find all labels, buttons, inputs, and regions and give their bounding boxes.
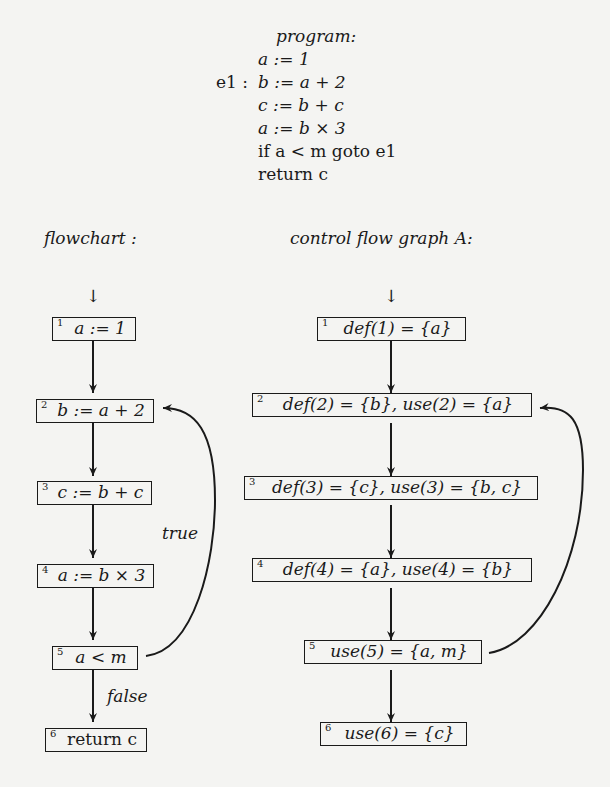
node-label: def(4) = {a}, use(4) = {b} xyxy=(271,559,513,580)
flowchart-node-1: 1a := 1 xyxy=(52,317,136,341)
node-label: a := b × 3 xyxy=(46,565,146,586)
node-number: 2 xyxy=(41,400,47,410)
node-number: 1 xyxy=(322,318,328,328)
node-label: def(2) = {b}, use(2) = {a} xyxy=(271,394,513,415)
node-label: return c xyxy=(55,729,137,750)
cfg-node-1: 1def(1) = {a} xyxy=(317,317,466,341)
node-label: use(6) = {c} xyxy=(332,723,454,744)
flowchart-node-6: 6return c xyxy=(45,728,147,752)
node-number: 6 xyxy=(50,729,56,739)
cfg-node-3: 3def(3) = {c}, use(3) = {b, c} xyxy=(244,476,538,500)
cfg-node-2: 2def(2) = {b}, use(2) = {a} xyxy=(252,393,532,417)
node-label: a < m xyxy=(63,647,126,668)
node-number: 5 xyxy=(57,647,63,657)
edge-label-false: false xyxy=(107,686,148,706)
node-number: 3 xyxy=(249,477,255,487)
flowchart-node-2: 2b := a + 2 xyxy=(36,399,154,423)
node-label: a := 1 xyxy=(62,318,126,339)
cfg-node-6: 6use(6) = {c} xyxy=(320,722,467,746)
node-number: 2 xyxy=(257,394,263,404)
cfg-back-edge xyxy=(489,408,583,653)
node-label: def(1) = {a} xyxy=(331,318,451,339)
flowchart-node-5: 5a < m xyxy=(52,646,138,670)
node-label: c := b + c xyxy=(46,482,144,503)
cfg-entry-arrow-icon: ↓ xyxy=(384,288,398,305)
node-number: 3 xyxy=(42,482,48,492)
node-number: 4 xyxy=(42,565,48,575)
cfg-node-4: 4def(4) = {a}, use(4) = {b} xyxy=(252,558,532,582)
node-label: def(3) = {c}, use(3) = {b, c} xyxy=(260,477,522,498)
node-label: b := a + 2 xyxy=(45,400,145,421)
node-number: 6 xyxy=(325,723,331,733)
flowchart-entry-arrow-icon: ↓ xyxy=(86,288,100,305)
node-number: 5 xyxy=(309,641,315,651)
cfg-node-5: 5use(5) = {a, m} xyxy=(304,640,482,664)
node-number: 4 xyxy=(257,559,263,569)
edge-label-true: true xyxy=(162,523,198,543)
flowchart-node-4: 4a := b × 3 xyxy=(37,564,154,588)
node-number: 1 xyxy=(57,318,63,328)
node-label: use(5) = {a, m} xyxy=(318,641,468,662)
flowchart-node-3: 3c := b + c xyxy=(37,481,152,505)
